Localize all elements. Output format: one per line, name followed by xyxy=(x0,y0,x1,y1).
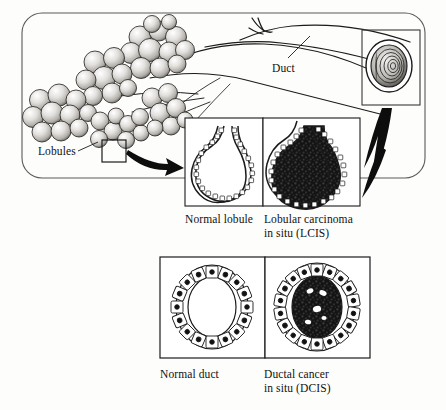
panel-normal-lobule xyxy=(185,118,263,206)
duct-zoom-arrow xyxy=(362,108,392,198)
breast-anatomy-diagram xyxy=(0,0,446,410)
panel-lcis xyxy=(263,118,360,209)
lobules-label: Lobules xyxy=(38,145,76,157)
duct-label: Duct xyxy=(272,62,295,74)
lobule-clusters xyxy=(23,15,195,149)
lobule-zoom-arrow xyxy=(126,150,184,176)
lobule-cluster-callout xyxy=(91,108,150,149)
caption-normal-duct: Normal duct xyxy=(160,368,219,382)
caption-normal-lobule: Normal lobule xyxy=(185,213,253,227)
caption-dcis: Ductal cancer in situ (DCIS) xyxy=(264,368,331,395)
panel-dcis xyxy=(265,257,370,358)
duct-cross-section-inset xyxy=(362,30,420,105)
lobule-cluster-upper xyxy=(121,15,195,79)
panel-normal-duct xyxy=(160,257,265,358)
figure-canvas: Duct Lobules Normal lobule Lobular carci… xyxy=(0,0,446,410)
caption-lcis: Lobular carcinoma in situ (LCIS) xyxy=(264,213,353,240)
